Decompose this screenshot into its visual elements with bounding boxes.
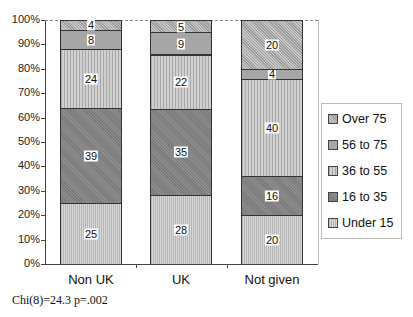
x-tick-mark <box>227 264 228 268</box>
data-label: 4 <box>87 20 95 31</box>
legend-swatch <box>328 140 338 150</box>
legend-item: 36 to 55 <box>328 164 387 178</box>
y-tick-label: 40% <box>0 159 40 171</box>
data-label: 4 <box>268 69 276 80</box>
y-tick-label: 90% <box>0 37 40 49</box>
data-label: 5 <box>177 21 185 32</box>
legend: Over 7556 to 7536 to 5516 to 35Under 15 <box>321 103 402 239</box>
data-label: 39 <box>84 150 98 161</box>
segment-16to35: 39 <box>60 108 122 204</box>
data-label: 24 <box>84 74 98 85</box>
legend-item: Over 75 <box>328 112 386 126</box>
y-tick-label: 80% <box>0 62 40 74</box>
legend-swatch <box>328 114 338 124</box>
legend-label: 16 to 35 <box>342 190 387 204</box>
segment-under15: 25 <box>60 203 122 265</box>
data-label: 22 <box>174 77 188 88</box>
y-tick-label: 70% <box>0 86 40 98</box>
segment-36to55: 40 <box>241 79 303 178</box>
data-label: 40 <box>265 122 279 133</box>
y-tick-label: 10% <box>0 233 40 245</box>
bar-non-uk: 25392484 <box>60 20 122 264</box>
y-tick-label: 100% <box>0 13 40 25</box>
segment-over75: 4 <box>60 20 122 31</box>
segment-under15: 20 <box>241 215 303 265</box>
data-label: 25 <box>84 229 98 240</box>
segment-under15: 28 <box>150 195 212 265</box>
x-tick-mark <box>136 264 137 268</box>
legend-label: Over 75 <box>342 112 386 126</box>
bar-uk: 28352295 <box>150 20 212 264</box>
legend-label: Under 15 <box>342 216 393 230</box>
y-tick-label: 0% <box>0 257 40 269</box>
segment-16to35: 35 <box>150 109 212 196</box>
legend-swatch <box>328 192 338 202</box>
legend-item: 56 to 75 <box>328 138 387 152</box>
stacked-bar-chart: 0%10%20%30%40%50%60%70%80%90%100% 253924… <box>0 0 413 317</box>
segment-56to75: 8 <box>60 30 122 51</box>
data-label: 20 <box>265 39 279 50</box>
plot-right-border <box>318 20 319 264</box>
legend-swatch <box>328 166 338 176</box>
bar-not-given: 201640420 <box>241 20 303 264</box>
segment-36to55: 22 <box>150 55 212 110</box>
data-label: 35 <box>174 147 188 158</box>
legend-label: 56 to 75 <box>342 138 387 152</box>
x-tick-label: UK <box>131 272 231 287</box>
legend-item: Under 15 <box>328 216 393 230</box>
chi-square-annotation: Chi(8)=24.3 p=.002 <box>12 293 108 308</box>
y-tick-label: 20% <box>0 208 40 220</box>
segment-56to75: 9 <box>150 32 212 55</box>
y-tick-label: 30% <box>0 184 40 196</box>
data-label: 20 <box>265 235 279 246</box>
legend-item: 16 to 35 <box>328 190 387 204</box>
segment-36to55: 24 <box>60 49 122 109</box>
y-tick-label: 50% <box>0 135 40 147</box>
segment-16to35: 16 <box>241 176 303 216</box>
x-axis <box>45 264 318 265</box>
y-axis <box>45 20 46 264</box>
legend-swatch <box>328 218 338 228</box>
segment-56to75: 4 <box>241 69 303 80</box>
legend-label: 36 to 55 <box>342 164 387 178</box>
data-label: 28 <box>174 224 188 235</box>
segment-over75: 20 <box>241 20 303 70</box>
x-tick-label: Not given <box>222 272 322 287</box>
data-label: 16 <box>265 191 279 202</box>
data-label: 9 <box>177 38 185 49</box>
segment-over75: 5 <box>150 20 212 33</box>
data-label: 8 <box>87 35 95 46</box>
y-tick-label: 60% <box>0 111 40 123</box>
x-tick-label: Non UK <box>41 272 141 287</box>
